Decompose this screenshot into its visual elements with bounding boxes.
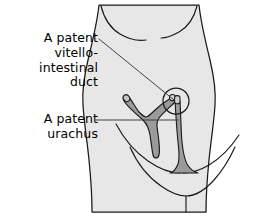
abdomen-outline — [83, 5, 216, 212]
label-vitello-intestinal-duct: A patent vitello-intestinal duct — [2, 31, 98, 90]
urachus-umbilical-opening-icon — [175, 96, 180, 104]
figure-container: A patent vitello-intestinal duct A paten… — [0, 0, 280, 216]
label-urachus: A patent urachus — [2, 112, 98, 142]
